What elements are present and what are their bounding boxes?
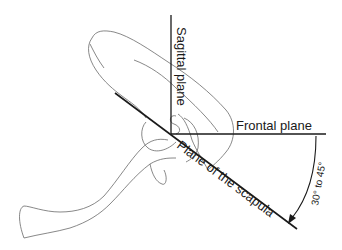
humerus-outline-bottom: [24, 158, 176, 238]
angle-arc: [288, 136, 316, 224]
sagittal-plane-label: Sagittal plane: [174, 27, 189, 106]
humerus-outline-top: [20, 139, 169, 238]
scapula-ridge: [90, 44, 104, 68]
glenoid-outline: [170, 116, 179, 134]
scapula-outline-left: [89, 38, 146, 118]
angle-label: 30° to 45°: [309, 161, 327, 206]
diagram-svg: Sagittal plane Frontal plane Plane of th…: [0, 0, 342, 250]
scapula-outline: [92, 31, 234, 170]
lesser-tubercle: [150, 164, 166, 184]
arrowhead-icon: [288, 214, 296, 224]
frontal-plane-label: Frontal plane: [236, 118, 312, 133]
scapular-plane-diagram: Sagittal plane Frontal plane Plane of th…: [0, 0, 342, 250]
scapular-plane-label: Plane of the scapula: [174, 137, 278, 220]
